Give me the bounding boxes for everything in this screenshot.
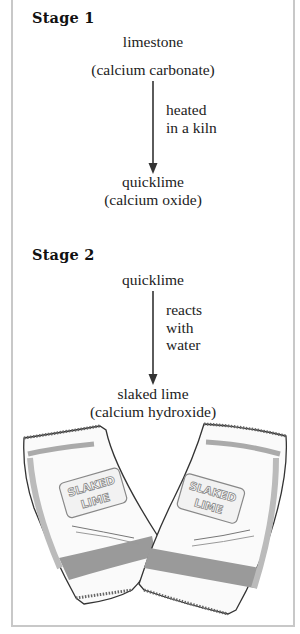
stage-2-title: Stage 2 xyxy=(32,246,94,263)
calcium-oxide-label: (calcium oxide) xyxy=(23,191,283,209)
stage-1-arrow-icon xyxy=(147,80,159,175)
stage-2-arrow-icon xyxy=(147,290,159,386)
quicklime-label: quicklime xyxy=(23,173,283,191)
process-line: heated xyxy=(166,101,217,119)
stage-1-process: heated in a kiln xyxy=(166,101,217,136)
slaked-lime-label: slaked lime xyxy=(23,385,283,403)
right-bag-icon: SLAKED LIME xyxy=(139,424,286,614)
quicklime-start-label: quicklime xyxy=(23,271,283,289)
process-line: in a kiln xyxy=(166,119,217,137)
stage-2-process: reacts with water xyxy=(166,301,202,354)
calcium-carbonate-label: (calcium carbonate) xyxy=(23,61,283,79)
slaked-lime-bags-illustration: SLAKED LIME SLAKED LIME xyxy=(14,418,289,618)
limestone-label: limestone xyxy=(23,33,283,51)
process-line: reacts xyxy=(166,301,202,319)
process-line: with xyxy=(166,319,202,337)
process-line: water xyxy=(166,336,202,354)
left-bag-icon: SLAKED LIME xyxy=(24,426,159,604)
stage-1-title: Stage 1 xyxy=(32,9,94,26)
